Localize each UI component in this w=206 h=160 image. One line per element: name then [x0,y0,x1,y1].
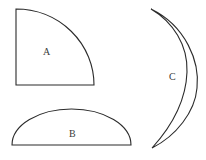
shape-a-label: A [43,47,50,57]
geometry-figure-canvas: A B C [0,0,206,160]
shape-b-semicircle [12,109,131,145]
shape-b-label: B [69,129,76,139]
shape-c-label: C [169,72,176,82]
shape-a-quarter-circle [16,9,94,85]
